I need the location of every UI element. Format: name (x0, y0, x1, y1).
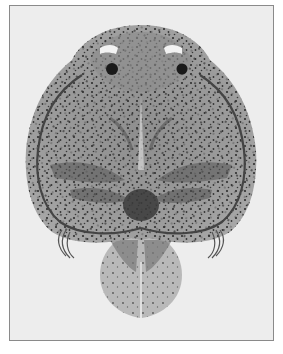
abdomen-lobes (100, 232, 182, 318)
specimen-illustration (0, 0, 283, 354)
eye-right (177, 64, 188, 75)
eye-left (106, 63, 118, 75)
